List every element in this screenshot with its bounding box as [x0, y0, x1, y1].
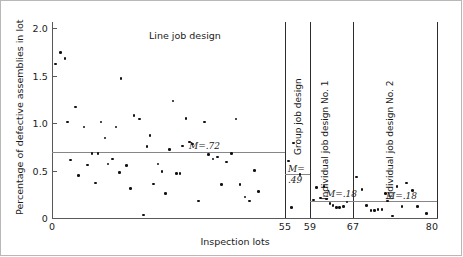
data-point	[164, 192, 167, 195]
data-point	[230, 152, 233, 155]
data-point	[287, 160, 290, 163]
data-point	[59, 51, 62, 54]
data-point	[319, 197, 322, 200]
data-point	[115, 126, 118, 129]
data-point	[365, 204, 368, 207]
data-point	[396, 185, 399, 188]
data-point	[342, 205, 345, 208]
data-point	[225, 161, 228, 164]
data-point	[361, 188, 364, 191]
data-point	[416, 205, 419, 208]
data-point	[235, 118, 238, 121]
data-point	[66, 121, 69, 124]
data-point	[152, 183, 155, 186]
data-point	[411, 189, 414, 192]
data-point	[405, 182, 408, 185]
data-point	[142, 214, 145, 217]
data-point	[401, 205, 404, 208]
data-point	[381, 208, 384, 211]
data-point	[149, 134, 152, 137]
data-point	[384, 192, 387, 195]
data-point	[185, 117, 188, 120]
scatter-plot-figure: 2.0 1.5 1.0 0.5 0 0 55 59 67 80 Percenta…	[0, 0, 463, 257]
data-point	[216, 156, 219, 159]
data-point	[346, 201, 349, 204]
data-point	[118, 171, 121, 174]
data-point	[191, 143, 194, 146]
data-point	[325, 198, 328, 201]
data-point	[253, 169, 256, 172]
data-point	[244, 196, 247, 199]
data-point	[248, 200, 251, 203]
data-point	[104, 137, 107, 140]
data-point	[146, 145, 149, 148]
data-point	[391, 215, 394, 218]
data-points-layer	[0, 0, 463, 257]
data-point	[197, 200, 200, 203]
data-point	[207, 153, 210, 156]
data-point	[203, 121, 206, 124]
data-point	[212, 158, 215, 161]
data-point	[188, 141, 191, 144]
data-point	[111, 158, 114, 161]
data-point	[157, 163, 160, 166]
data-point	[299, 173, 302, 176]
data-point	[125, 164, 128, 167]
data-point	[120, 77, 123, 80]
data-point	[425, 212, 428, 215]
data-point	[54, 63, 57, 66]
data-point	[335, 206, 338, 209]
data-point	[69, 159, 72, 162]
data-point	[100, 121, 103, 124]
data-point	[91, 152, 94, 155]
data-point	[172, 100, 175, 103]
data-point	[168, 148, 171, 151]
data-point	[312, 199, 315, 202]
data-point	[94, 182, 97, 185]
data-point	[220, 183, 223, 186]
data-point	[373, 209, 376, 212]
data-point	[97, 152, 100, 155]
data-point	[181, 145, 184, 148]
data-point	[338, 206, 341, 209]
data-point	[386, 200, 389, 203]
data-point	[329, 202, 332, 205]
data-point	[355, 176, 358, 179]
data-point	[175, 172, 178, 175]
data-point	[239, 183, 242, 186]
data-point	[138, 118, 141, 121]
data-point	[332, 204, 335, 207]
data-point	[290, 206, 293, 209]
data-point	[257, 190, 260, 193]
data-point	[292, 142, 295, 145]
data-point	[377, 208, 380, 211]
data-point	[161, 170, 164, 173]
data-point	[77, 174, 80, 177]
data-point	[129, 187, 132, 190]
data-point	[315, 186, 318, 189]
data-point	[74, 106, 77, 109]
data-point	[179, 172, 182, 175]
data-point	[86, 164, 89, 167]
data-point	[64, 57, 67, 60]
data-point	[323, 185, 326, 188]
data-point	[370, 209, 373, 212]
data-point	[107, 163, 110, 166]
data-point	[133, 114, 136, 117]
data-point	[83, 126, 86, 129]
